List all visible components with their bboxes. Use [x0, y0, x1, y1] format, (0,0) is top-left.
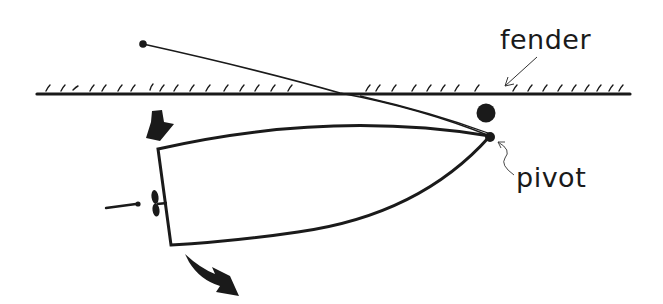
fender-pointer-arrow	[505, 57, 537, 86]
bow-pivot-point	[485, 132, 495, 142]
pivot-pointer-arrow	[498, 142, 514, 175]
dock-hatching	[46, 84, 623, 91]
stern-force-arrow-down	[146, 110, 174, 141]
dock-edge	[37, 84, 630, 94]
stern-swing-arrow-out	[185, 254, 239, 296]
fender-ball	[477, 104, 496, 123]
fender-label: fender	[500, 26, 591, 53]
boat-hull	[158, 126, 490, 245]
prop-wash-arrow	[106, 201, 141, 208]
pivot-label: pivot	[516, 164, 586, 191]
